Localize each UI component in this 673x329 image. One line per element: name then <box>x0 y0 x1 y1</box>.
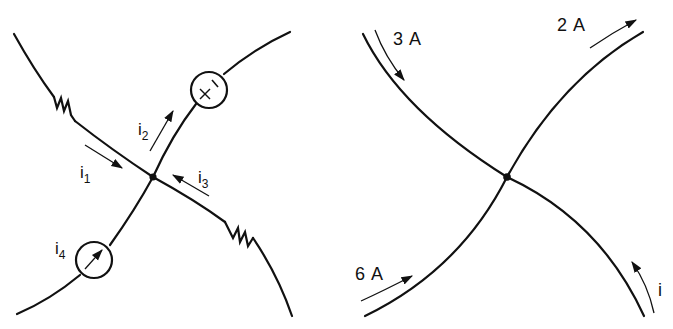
lower-left-branch <box>17 177 153 314</box>
upper-left-branch <box>14 34 153 177</box>
3a-label: 3 A <box>393 29 422 49</box>
i-label: i <box>658 280 663 300</box>
2a-arrow-icon <box>590 20 636 48</box>
2a-label: 2 A <box>557 15 586 35</box>
i1-label: i1 <box>80 163 91 186</box>
kcl-figure: i1 i2 i3 i4 3 A 2 A 6 A i <box>0 0 673 329</box>
upper-right-branch <box>507 32 643 177</box>
voltage-source-polarity <box>200 80 218 99</box>
resistor-icon <box>225 222 253 246</box>
i-arrow-icon <box>632 262 654 313</box>
i4-label: i4 <box>55 239 66 262</box>
left-circuit-node: i1 i2 i3 i4 <box>14 32 292 316</box>
current-source-icon <box>76 242 112 278</box>
lower-right-branch <box>507 177 644 316</box>
resistor-icon <box>54 97 75 121</box>
junction-node-icon <box>503 173 511 181</box>
junction-node-icon <box>149 173 156 180</box>
i1-arrow-icon <box>85 145 122 168</box>
current-source-arrow-icon <box>85 250 102 269</box>
upper-right-branch <box>153 32 290 177</box>
lower-right-branch <box>153 177 292 316</box>
right-circuit-node: 3 A 2 A 6 A i <box>355 15 663 316</box>
i2-label: i2 <box>138 120 149 143</box>
upper-left-branch <box>363 34 507 177</box>
6a-label: 6 A <box>355 264 384 284</box>
lower-left-branch <box>365 177 507 316</box>
i3-label: i3 <box>198 168 209 191</box>
